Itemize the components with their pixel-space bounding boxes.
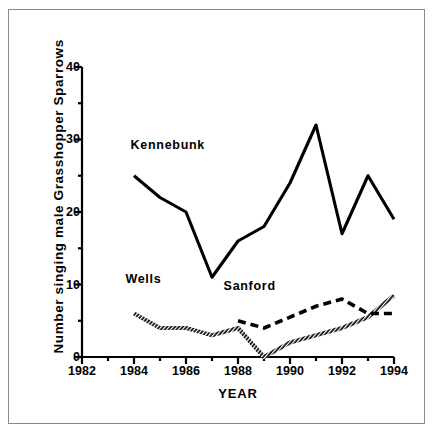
- axes: [75, 67, 394, 364]
- x-tick-label-1986: 1986: [164, 364, 208, 378]
- x-tick-label-1992: 1992: [320, 364, 364, 378]
- y-tick-label-10: 10: [52, 278, 80, 292]
- x-axis-title: YEAR: [82, 386, 394, 401]
- data-series: [134, 125, 394, 357]
- y-tick-label-0: 0: [52, 350, 80, 364]
- chart-plot-area: Number singing male Grasshopper Sparrows…: [0, 0, 437, 442]
- series-label-wells: Wells: [125, 272, 161, 286]
- y-axis-title: Number singing male Grasshopper Sparrows: [51, 54, 66, 354]
- series-label-kennebunk: Kennebunk: [131, 138, 205, 152]
- x-tick-label-1988: 1988: [216, 364, 260, 378]
- x-tick-label-1984: 1984: [112, 364, 156, 378]
- series-label-sanford: Sanford: [224, 279, 276, 293]
- x-tick-label-1990: 1990: [268, 364, 312, 378]
- y-tick-label-40: 40: [52, 60, 80, 74]
- x-tick-label-1982: 1982: [60, 364, 104, 378]
- x-tick-label-1994: 1994: [372, 364, 416, 378]
- y-tick-label-30: 30: [52, 132, 80, 146]
- y-tick-label-20: 20: [52, 205, 80, 219]
